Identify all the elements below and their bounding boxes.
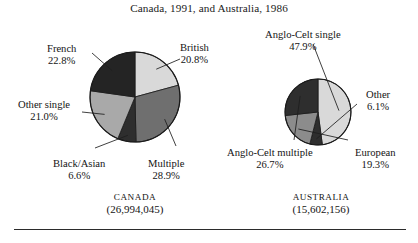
slice-label-anglo-celt-single: Anglo-Celt single 47.9% bbox=[265, 29, 341, 52]
slice-label-other-single: Other single 21.0% bbox=[18, 99, 70, 122]
slice-label-name: Anglo-Celt multiple bbox=[227, 147, 313, 158]
slice-label-french: French 22.8% bbox=[47, 43, 76, 66]
leader-line bbox=[95, 135, 128, 148]
slice-label-name: Other bbox=[366, 89, 390, 100]
slice-label-british: British 20.8% bbox=[180, 42, 209, 65]
country-name: AUSTRALIA bbox=[268, 192, 374, 202]
slice-label-black-asian: Black/Asian 6.6% bbox=[53, 158, 105, 181]
chart-caption-australia: AUSTRALIA (15,602,156) bbox=[268, 192, 374, 215]
slice-label-name: Anglo-Celt single bbox=[265, 29, 341, 40]
slice-label-name: French bbox=[47, 43, 76, 54]
country-population: (26,994,045) bbox=[82, 203, 188, 215]
pie-slice bbox=[90, 52, 135, 97]
slice-label-name: Other single bbox=[18, 99, 70, 110]
slice-label-pct: 19.3% bbox=[355, 159, 396, 171]
slice-label-other: Other 6.1% bbox=[366, 89, 390, 112]
slice-label-european: European 19.3% bbox=[355, 147, 396, 170]
slice-label-pct: 22.8% bbox=[47, 55, 76, 67]
slice-label-name: British bbox=[180, 42, 209, 53]
country-name: CANADA bbox=[82, 192, 188, 202]
slice-label-pct: 6.1% bbox=[366, 101, 390, 113]
slice-label-anglo-celt-multiple: Anglo-Celt multiple 26.7% bbox=[227, 147, 313, 170]
slice-label-multiple: Multiple 28.9% bbox=[148, 158, 185, 181]
slice-label-pct: 28.9% bbox=[148, 170, 185, 182]
chart-caption-canada: CANADA (26,994,045) bbox=[82, 192, 188, 215]
slice-label-pct: 47.9% bbox=[265, 41, 341, 53]
country-population: (15,602,156) bbox=[268, 203, 374, 215]
slice-label-pct: 6.6% bbox=[53, 170, 105, 182]
slice-label-pct: 26.7% bbox=[227, 159, 313, 171]
figure-canvas: Canada, 1991, and Australia, 1986 French… bbox=[0, 0, 418, 243]
slice-label-name: Multiple bbox=[148, 158, 185, 169]
slice-label-name: European bbox=[355, 147, 396, 158]
slice-label-name: Black/Asian bbox=[53, 158, 105, 169]
slice-label-pct: 21.0% bbox=[18, 111, 70, 123]
slice-label-pct: 20.8% bbox=[180, 54, 209, 66]
bottom-divider bbox=[14, 229, 406, 230]
pie-slices-group bbox=[90, 52, 351, 145]
pie-slice bbox=[285, 79, 318, 116]
